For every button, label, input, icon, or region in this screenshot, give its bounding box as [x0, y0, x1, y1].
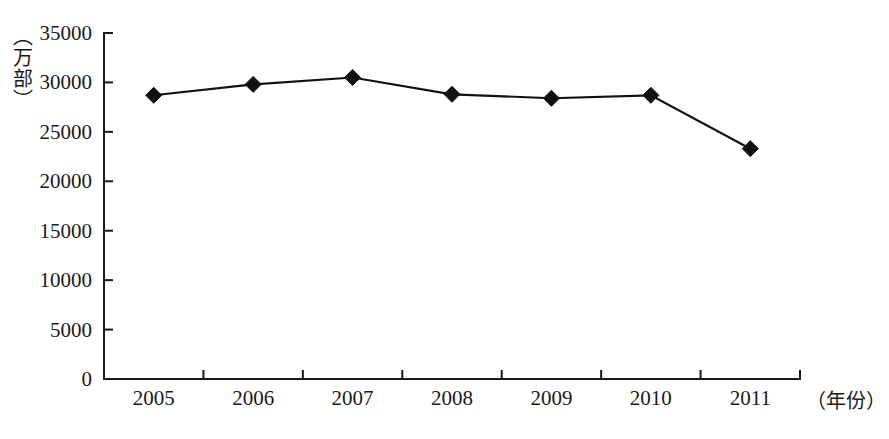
chart-container: 05000100001500020000250003000035000 2005… — [0, 0, 889, 439]
y-tick-label: 15000 — [40, 219, 93, 243]
y-tick-label: 10000 — [40, 268, 93, 292]
chart-background — [0, 0, 889, 439]
x-tick-label: 2006 — [232, 386, 274, 410]
y-axis-title: （万部） — [6, 26, 36, 146]
y-tick-label: 30000 — [40, 70, 93, 94]
y-axis-title-label: （万部） — [11, 26, 32, 110]
x-tick-label: 2007 — [332, 386, 374, 410]
x-tick-label: 2010 — [630, 386, 672, 410]
x-axis-title: （年份） — [806, 385, 886, 414]
line-chart-canvas: 05000100001500020000250003000035000 2005… — [0, 0, 889, 439]
y-tick-label: 0 — [82, 367, 93, 391]
x-tick-label: 2008 — [431, 386, 473, 410]
x-tick-label: 2009 — [530, 386, 572, 410]
y-tick-label: 20000 — [40, 169, 93, 193]
x-axis-title-label: （年份） — [806, 390, 886, 412]
y-tick-label: 5000 — [50, 318, 92, 342]
y-tick-label: 35000 — [40, 21, 93, 45]
x-tick-label: 2011 — [730, 386, 771, 410]
x-tick-label: 2005 — [133, 386, 175, 410]
y-tick-label: 25000 — [40, 120, 93, 144]
